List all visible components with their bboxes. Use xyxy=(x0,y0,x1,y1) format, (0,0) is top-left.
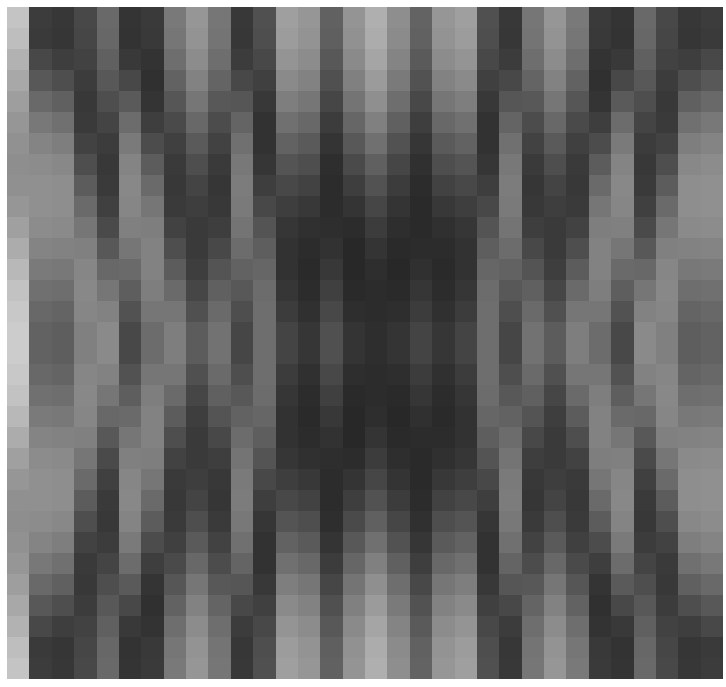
heatmap-axes xyxy=(7,7,723,679)
figure-canvas xyxy=(0,0,726,687)
heatmap-image xyxy=(7,7,723,679)
